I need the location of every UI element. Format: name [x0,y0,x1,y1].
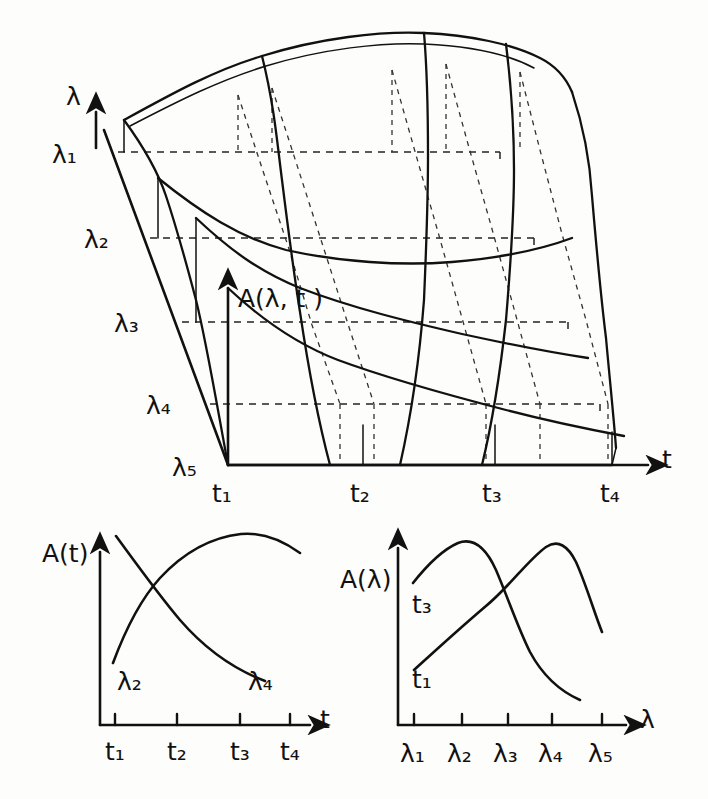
surface-lambda-tick-5: λ₅ [172,453,197,482]
surface-profile-lambda2 [158,178,572,264]
kinetics-y-axis-label: A(t) [42,539,88,568]
surface-lambda-tick-3: λ₃ [114,309,139,338]
spectra-x-axis-label: λ [640,705,655,734]
kinetics-x-axis-label: t [320,705,330,734]
spectra-lambda-tick-5: λ₅ [588,739,613,768]
surface-profile-t4 [572,92,616,448]
surface-profile-t2 [400,33,428,465]
surface-amplitude-label: A(λ, t ) [238,284,323,313]
spectra-lambda-tick-3: λ₃ [493,739,518,768]
spectra-x-ticks [414,714,602,725]
kinetics-x-ticks [115,714,290,725]
kinetics-t-tick-3: t₃ [230,737,250,766]
surface-t-tick-3: t₃ [482,479,502,508]
surface-t-tick-2: t₂ [350,479,370,508]
figure-root: λ λ₁ λ₂ λ₃ λ₄ λ₅ A(λ, t ) t t₁ t₂ t₃ t₄ [0,0,708,799]
surface-lambda-tick-2: λ₂ [84,225,109,254]
spectra-curve-t1 [414,544,602,670]
surface-3d-plot: λ λ₁ λ₂ λ₃ λ₄ λ₅ A(λ, t ) t t₁ t₂ t₃ t₄ [52,33,672,508]
spectra-lambda-tick-4: λ₄ [538,739,563,768]
surface-t-tick-4: t₄ [600,479,620,508]
kinetics-curve-label-lambda4: λ₄ [248,667,273,696]
spectra-y-axis-label: A(λ) [340,565,391,594]
kinetics-t-tick-2: t₂ [167,737,187,766]
kinetics-t-tick-1: t₁ [105,737,125,766]
figure-svg: λ λ₁ λ₂ λ₃ λ₄ λ₅ A(λ, t ) t t₁ t₂ t₃ t₄ [0,0,708,799]
kinetics-curve-label-lambda2: λ₂ [117,667,142,696]
surface-t-profiles [124,33,616,465]
surface-t-axis-label: t [662,445,672,474]
spectra-curve-label-t3: t₃ [412,590,432,619]
surface-lambda-tick-1: λ₁ [52,140,77,169]
kinetics-t-tick-4: t₄ [280,737,300,766]
axis-label-lambda: λ [66,82,81,111]
surface-t-tick-1: t₁ [212,479,232,508]
spectra-plot: A(λ) λ t₃ t₁ λ₁ λ₂ λ₃ λ₄ λ₅ [340,541,655,768]
spectra-curve-label-t1: t₁ [412,665,432,694]
surface-profile-lambda1 [124,33,572,120]
kinetics-plot: A(t) t λ₂ λ₄ t₁ t₂ t₃ t₄ [42,534,330,766]
surface-lambda-profiles [124,33,624,465]
surface-profile-t1 [124,120,228,465]
surface-vertical-connectors [124,120,228,404]
spectra-lambda-tick-2: λ₂ [447,739,472,768]
spectra-curve-t3 [413,541,580,700]
surface-dashed-gridlines [118,64,608,465]
kinetics-curve-lambda2 [113,534,300,663]
surface-lambda-tick-4: λ₄ [146,391,171,420]
spectra-lambda-tick-1: λ₁ [400,739,425,768]
